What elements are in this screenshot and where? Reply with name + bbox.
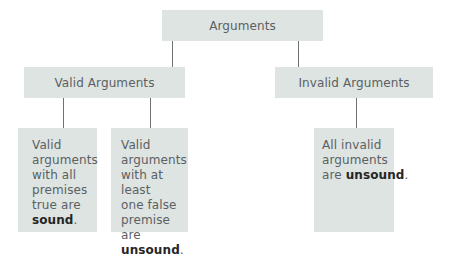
leaf-invalid-unsound: All invalid arguments are unsound.	[314, 128, 394, 232]
connector-valid-to-sound	[63, 98, 64, 128]
inline-prefix: are	[322, 168, 346, 182]
leaf-valid-unsound: Valid arguments with at least one false …	[111, 128, 188, 232]
connector-root-to-valid	[172, 40, 173, 67]
leaf-text-line: with at least	[121, 168, 188, 198]
emphasis-unsound: unsound	[346, 168, 405, 182]
period: .	[74, 213, 78, 227]
leaf-conclusion-line: sound.	[32, 213, 97, 228]
leaf-text-line: one false	[121, 198, 188, 213]
leaf-text-line: arguments	[322, 153, 394, 168]
leaf-text-line: arguments	[121, 153, 188, 168]
root-node-label: Arguments	[209, 19, 276, 33]
leaf-conclusion-line: unsound.	[121, 243, 188, 258]
connector-invalid-to-unsound	[356, 97, 357, 128]
leaf-text-line: premise are	[121, 213, 188, 243]
node-invalid-arguments: Invalid Arguments	[275, 67, 433, 98]
leaf-text-line: premises	[32, 183, 97, 198]
node-valid-arguments: Valid Arguments	[24, 67, 185, 98]
root-node-arguments: Arguments	[162, 10, 323, 41]
node-invalid-arguments-label: Invalid Arguments	[298, 76, 409, 90]
leaf-text-line: Valid	[32, 138, 97, 153]
connector-root-to-invalid	[298, 40, 299, 67]
leaf-text-line: with all	[32, 168, 97, 183]
node-valid-arguments-label: Valid Arguments	[54, 76, 154, 90]
period: .	[404, 168, 408, 182]
leaf-conclusion-line: are unsound.	[322, 168, 394, 183]
leaf-text-line: true are	[32, 198, 97, 213]
leaf-text-line: Valid	[121, 138, 188, 153]
period: .	[180, 243, 184, 257]
leaf-valid-sound: Valid arguments with all premises true a…	[18, 128, 97, 232]
emphasis-sound: sound	[32, 213, 74, 227]
connector-valid-to-unsound	[150, 98, 151, 128]
leaf-text-line: arguments	[32, 153, 97, 168]
emphasis-unsound: unsound	[121, 243, 180, 257]
leaf-text-line: All invalid	[322, 138, 394, 153]
